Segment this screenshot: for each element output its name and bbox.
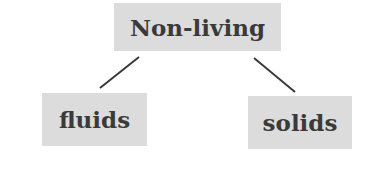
node-label: fluids [59, 106, 130, 133]
node-non-living: Non-living [114, 3, 281, 51]
connector-root-fluids [100, 57, 139, 88]
connector-root-solids [254, 58, 295, 92]
node-label: solids [263, 109, 338, 136]
node-label: Non-living [130, 14, 265, 41]
node-solids: solids [248, 96, 352, 149]
node-fluids: fluids [42, 93, 147, 146]
